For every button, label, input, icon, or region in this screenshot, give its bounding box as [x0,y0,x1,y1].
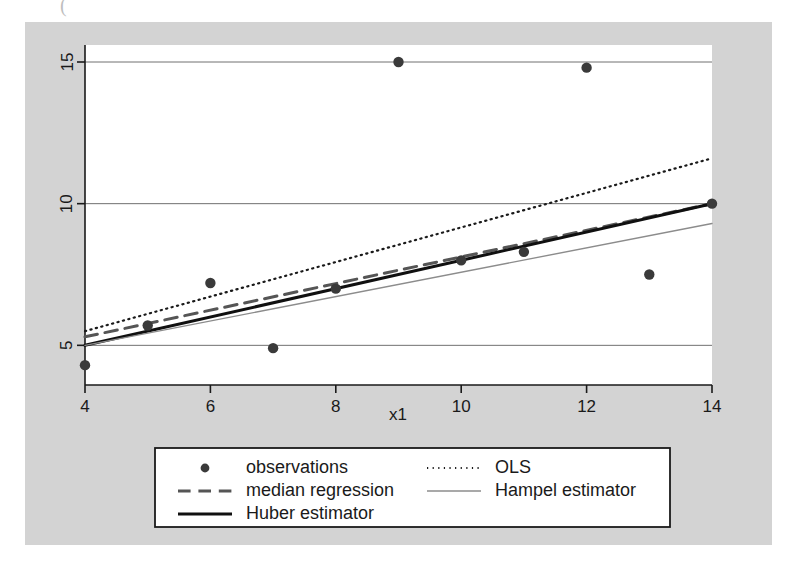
observation-point [331,283,341,293]
x-tick-label: 10 [452,397,471,416]
legend-label: Huber estimator [246,503,374,523]
observation-point [393,57,403,67]
legend-label: observations [246,457,348,477]
observation-point [581,62,591,72]
observation-point [205,278,215,288]
y-tick-label: 5 [58,341,77,350]
legend-label: OLS [495,457,531,477]
observation-point [644,269,654,279]
observation-point [143,320,153,330]
figure-container: ( 51015 468101214 x1 observationsOLSmedi… [0,0,788,572]
legend: observationsOLSmedian regressionHampel e… [155,448,670,527]
observation-point [519,247,529,257]
legend-label: median regression [246,480,394,500]
observation-point [456,255,466,265]
x-tick-label: 12 [577,397,596,416]
legend-dot-icon [201,464,210,473]
regression-chart: 51015 468101214 x1 observationsOLSmedian… [0,0,788,572]
x-tick-label: 4 [80,397,89,416]
observation-point [707,198,717,208]
y-tick-label: 15 [58,53,77,72]
x-tick-label: 6 [206,397,215,416]
plot-area-background [85,45,712,385]
legend-label: Hampel estimator [495,480,636,500]
x-axis-label: x1 [389,405,407,424]
y-tick-label: 10 [58,194,77,213]
observation-point [80,360,90,370]
x-tick-label: 14 [703,397,722,416]
observation-point [268,343,278,353]
x-tick-label: 8 [331,397,340,416]
